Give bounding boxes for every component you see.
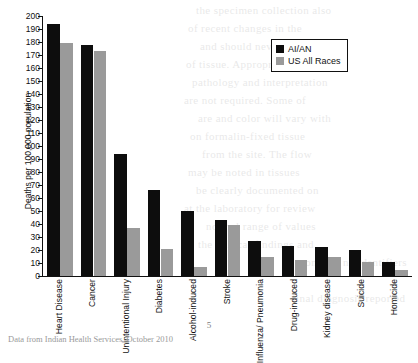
y-axis-tick-label: 200	[14, 12, 40, 20]
y-axis-tick-mark	[38, 276, 42, 277]
y-axis-tick-mark	[38, 250, 42, 251]
y-axis-tick-label: 90	[14, 155, 40, 163]
legend-entry-us-all-races: US All Races	[276, 55, 341, 67]
y-axis-tick-mark	[38, 29, 42, 30]
y-axis-tick-label: 130	[14, 103, 40, 111]
legend-swatch-icon	[276, 45, 284, 53]
y-axis-tick-label: 180	[14, 38, 40, 46]
bar[interactable]	[362, 262, 375, 276]
y-axis-tick-label: 80	[14, 168, 40, 176]
x-axis-tick-label: Kidney disease	[323, 279, 333, 338]
y-axis-tick-label: 120	[14, 116, 40, 124]
y-axis-tick-label: 40	[14, 220, 40, 228]
x-axis-tick-label: Stroke	[223, 279, 233, 304]
bar[interactable]	[194, 267, 207, 276]
bar[interactable]	[215, 220, 228, 276]
x-axis-tick-label: Suicide	[357, 279, 367, 308]
y-axis-tick-mark	[38, 211, 42, 212]
bar-group	[215, 16, 241, 276]
bar[interactable]	[282, 246, 295, 276]
bar[interactable]	[248, 241, 261, 276]
legend-label: US All Races	[288, 56, 341, 66]
bar[interactable]	[114, 154, 127, 276]
bar[interactable]	[127, 228, 140, 276]
y-axis-tick-label: 0	[14, 272, 40, 280]
bar[interactable]	[315, 247, 328, 276]
y-axis-tick-mark	[38, 120, 42, 121]
y-axis-tick-mark	[38, 146, 42, 147]
bar[interactable]	[295, 260, 308, 276]
x-axis-tick-label: Alcohol-induced	[189, 279, 199, 341]
plot-area	[43, 16, 412, 276]
y-axis-tick-mark	[38, 68, 42, 69]
y-axis-tick-mark	[38, 55, 42, 56]
y-axis-tick-label: 30	[14, 233, 40, 241]
bar[interactable]	[81, 45, 94, 276]
y-axis-tick-mark	[38, 185, 42, 186]
x-axis-tick-label: Diabetes	[155, 279, 165, 313]
bar[interactable]	[181, 211, 194, 276]
bar[interactable]	[382, 262, 395, 276]
bar-group	[248, 16, 274, 276]
bar[interactable]	[228, 225, 241, 276]
y-axis-tick-mark	[38, 237, 42, 238]
y-axis-tick-label: 70	[14, 181, 40, 189]
legend-swatch-icon	[276, 57, 284, 65]
y-axis-tick-label: 160	[14, 64, 40, 72]
y-axis-tick-mark	[38, 159, 42, 160]
y-axis-tick-label: 150	[14, 77, 40, 85]
y-axis-tick-label: 140	[14, 90, 40, 98]
bar[interactable]	[47, 24, 60, 276]
y-axis-tick-mark	[38, 172, 42, 173]
x-axis-tick-label: Homicide	[390, 279, 400, 315]
x-axis-tick-labels: Heart DiseaseCancerUnintentional InjuryD…	[43, 279, 412, 341]
x-axis-tick-label: Drug-induced	[290, 279, 300, 331]
y-axis-tick-mark	[38, 81, 42, 82]
y-axis-tick-mark	[38, 16, 42, 17]
y-axis-tick-mark	[38, 133, 42, 134]
y-axis-tick-mark	[38, 42, 42, 43]
y-axis-tick-label: 60	[14, 194, 40, 202]
bar-group	[81, 16, 107, 276]
x-axis-tick-label: Cancer	[88, 279, 98, 307]
legend-entry-ai-an: AI/AN	[276, 43, 341, 55]
bar-group	[181, 16, 207, 276]
y-axis-tick-label: 10	[14, 259, 40, 267]
y-axis-tick-mark	[38, 198, 42, 199]
bar-group	[382, 16, 408, 276]
legend-label: AI/AN	[288, 44, 312, 54]
y-axis-tick-mark	[38, 224, 42, 225]
x-axis-line	[42, 276, 412, 277]
bar[interactable]	[148, 190, 161, 276]
legend: AI/AN US All Races	[271, 39, 348, 72]
y-axis-tick-label: 170	[14, 51, 40, 59]
y-axis-tick-label: 110	[14, 129, 40, 137]
bar[interactable]	[60, 43, 73, 276]
source-note: Data from Indian Health Services, Octobe…	[8, 334, 173, 344]
bar-group	[47, 16, 73, 276]
x-axis-tick-label: Influenza/ Pneumonia	[256, 279, 266, 363]
bar[interactable]	[349, 250, 362, 276]
y-axis-tick-mark	[38, 107, 42, 108]
y-axis-tick-label: 190	[14, 25, 40, 33]
bar[interactable]	[261, 257, 274, 277]
bar-group	[349, 16, 375, 276]
bar[interactable]	[328, 257, 341, 277]
y-axis-tick-mark	[38, 263, 42, 264]
bar-group	[114, 16, 140, 276]
x-axis-tick-label: Heart Disease	[55, 279, 65, 334]
bar-group	[148, 16, 174, 276]
y-axis-tick-label: 20	[14, 246, 40, 254]
bar[interactable]	[161, 249, 174, 276]
y-axis-tick-label: 100	[14, 142, 40, 150]
bar[interactable]	[395, 270, 408, 277]
y-axis-tick-label: 50	[14, 207, 40, 215]
y-axis-tick-labels: 0102030405060708090100110120130140150160…	[14, 0, 40, 344]
bar[interactable]	[94, 51, 107, 276]
y-axis-tick-mark	[38, 94, 42, 95]
